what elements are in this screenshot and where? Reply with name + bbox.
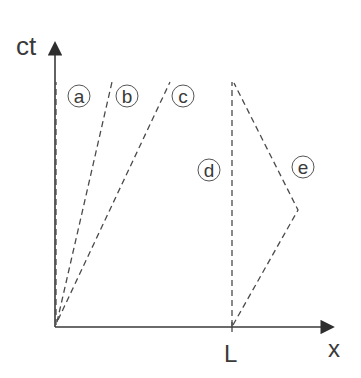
label-d: d xyxy=(198,159,220,181)
ct-axis-label: ct xyxy=(16,31,37,61)
worldline-c xyxy=(58,82,170,320)
label-a: a xyxy=(68,85,90,107)
label-c: c xyxy=(172,85,194,107)
L-tick-label: L xyxy=(224,340,237,367)
label-b-text: b xyxy=(122,86,133,107)
worldline-e xyxy=(233,83,298,325)
label-b: b xyxy=(116,85,138,107)
label-e: e xyxy=(292,156,314,178)
worldline-b xyxy=(57,82,112,322)
label-c-text: c xyxy=(178,86,188,107)
label-e-text: e xyxy=(298,157,309,178)
spacetime-diagram: ct x L a b c d e xyxy=(0,0,361,378)
x-axis-label: x xyxy=(328,335,340,362)
label-a-text: a xyxy=(74,86,85,107)
label-d-text: d xyxy=(204,160,215,181)
